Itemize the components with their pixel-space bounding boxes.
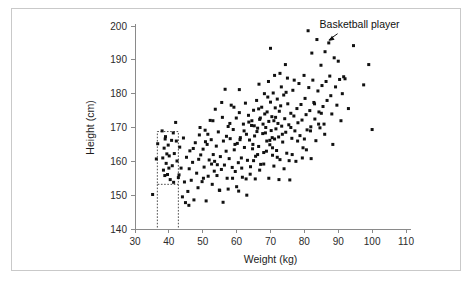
data-point	[291, 89, 294, 92]
data-point	[202, 148, 205, 151]
data-point	[280, 85, 283, 88]
data-point	[217, 130, 220, 133]
data-point	[190, 179, 193, 182]
y-tick-label: 160	[110, 156, 127, 167]
data-point	[161, 156, 164, 159]
data-point	[162, 169, 165, 172]
data-point	[199, 126, 202, 129]
data-point	[245, 177, 248, 180]
data-point	[268, 139, 271, 142]
data-point	[371, 128, 374, 131]
data-point	[265, 150, 268, 153]
data-point	[286, 102, 289, 105]
data-point	[280, 125, 283, 128]
data-point	[267, 120, 270, 123]
data-point	[247, 114, 250, 117]
data-point	[246, 159, 249, 162]
data-point	[297, 82, 300, 85]
data-point	[211, 119, 214, 122]
data-point	[284, 131, 287, 134]
data-point	[285, 91, 288, 94]
data-point	[338, 78, 341, 81]
data-point	[218, 189, 221, 192]
data-point	[228, 122, 231, 125]
data-point	[238, 111, 241, 114]
data-point	[263, 92, 266, 95]
data-point	[305, 113, 308, 116]
data-point	[188, 149, 191, 152]
data-point	[259, 117, 262, 120]
data-point	[308, 109, 311, 112]
data-point	[296, 140, 299, 143]
data-point	[266, 96, 269, 99]
data-point	[288, 178, 291, 181]
data-point	[317, 123, 320, 126]
data-point-group	[151, 29, 374, 207]
data-point	[362, 83, 365, 86]
data-point	[271, 154, 274, 157]
data-point	[169, 178, 172, 181]
data-point	[301, 156, 304, 159]
data-point	[274, 106, 277, 109]
data-point	[163, 174, 166, 177]
data-point	[352, 44, 355, 47]
data-point	[188, 167, 191, 170]
data-point	[255, 130, 258, 133]
dotted-selection-rectangle[interactable]	[157, 132, 178, 185]
data-point	[165, 152, 168, 155]
data-point	[256, 127, 259, 130]
data-point	[318, 126, 321, 129]
data-point	[181, 195, 184, 198]
data-point	[173, 152, 176, 155]
scatter-plot[interactable]: 3040506070809010011014015016017018019020…	[12, 9, 460, 270]
data-point	[205, 199, 208, 202]
data-point	[252, 159, 255, 162]
x-tick-label: 60	[231, 236, 243, 247]
data-point	[237, 190, 240, 193]
data-point	[310, 157, 313, 160]
data-point	[303, 138, 306, 141]
annotation-label: Basketball player	[320, 18, 400, 30]
data-point	[220, 101, 223, 104]
data-point	[215, 174, 218, 177]
data-point	[197, 158, 200, 161]
x-tick-label: 40	[163, 236, 175, 247]
data-point	[302, 146, 305, 149]
data-point	[206, 133, 209, 136]
data-point	[276, 98, 279, 101]
data-point	[251, 143, 254, 146]
data-point	[232, 128, 235, 131]
data-point	[262, 123, 265, 126]
data-point	[330, 112, 333, 115]
data-point	[307, 29, 310, 32]
data-point	[172, 181, 175, 184]
data-point	[194, 141, 197, 144]
data-point	[293, 79, 296, 82]
data-point	[230, 104, 233, 107]
data-point	[301, 119, 304, 122]
data-point	[313, 118, 316, 121]
data-point	[227, 125, 230, 128]
data-point	[316, 89, 319, 92]
data-point	[204, 140, 207, 143]
data-point	[229, 137, 232, 140]
data-point	[156, 142, 159, 145]
data-point	[265, 140, 268, 143]
data-point	[287, 123, 290, 126]
data-point	[185, 156, 188, 159]
data-point	[286, 77, 289, 80]
data-point	[315, 38, 318, 41]
data-point	[178, 173, 181, 176]
data-point	[176, 159, 179, 162]
data-point	[277, 135, 280, 138]
data-point	[328, 75, 331, 78]
data-point	[282, 94, 285, 97]
data-point	[221, 116, 224, 119]
data-point	[289, 126, 292, 129]
data-point	[201, 180, 204, 183]
data-point	[225, 135, 228, 138]
data-point	[242, 123, 245, 126]
figure-frame: 3040506070809010011014015016017018019020…	[11, 8, 461, 271]
y-tick-label: 200	[110, 21, 127, 32]
data-point	[215, 145, 218, 148]
